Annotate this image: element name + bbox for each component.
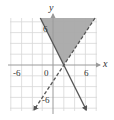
x-tick-0: 0	[44, 69, 49, 78]
shaded-region	[40, 18, 95, 65]
y-tick-6: 6	[43, 25, 48, 34]
y-axis-label: y	[49, 3, 53, 13]
x-axis-label: x	[103, 59, 107, 69]
y-tick-neg6: -6	[42, 96, 50, 105]
inequality-graph	[0, 0, 114, 120]
x-tick-6: 6	[84, 69, 89, 78]
x-tick-neg6: -6	[13, 69, 21, 78]
